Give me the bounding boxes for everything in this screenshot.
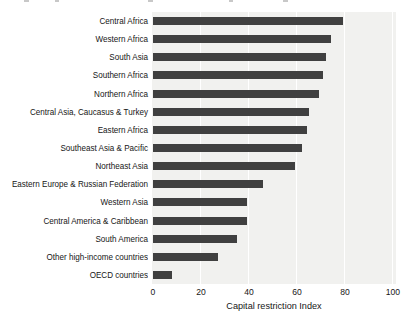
gridline-80 xyxy=(344,12,345,284)
category-label: South Asia xyxy=(9,52,148,62)
bar xyxy=(153,17,343,25)
bar xyxy=(153,162,295,170)
x-tick-label: 100 xyxy=(379,287,408,297)
bar xyxy=(153,180,263,188)
bar xyxy=(153,53,326,61)
category-label: OECD countries xyxy=(9,270,148,280)
category-label: Southeast Asia & Pacific xyxy=(9,143,148,153)
gridline-100 xyxy=(392,12,393,284)
bar xyxy=(153,217,247,225)
bar xyxy=(153,90,319,98)
x-tick-label: 40 xyxy=(235,287,264,297)
category-label: Southern Africa xyxy=(9,70,148,80)
category-label: Western Asia xyxy=(9,197,148,207)
category-label: Eastern Europe & Russian Federation xyxy=(9,179,148,189)
category-label: Western Africa xyxy=(9,34,148,44)
bar xyxy=(153,253,218,261)
cropped-title-fragments xyxy=(0,0,411,3)
category-label: Central America & Caribbean xyxy=(9,216,148,226)
bar-chart-figure: Central AfricaWestern AfricaSouth AsiaSo… xyxy=(0,0,411,325)
category-label: Northern Africa xyxy=(9,89,148,99)
x-tick-label: 20 xyxy=(187,287,216,297)
bar xyxy=(153,235,237,243)
bar xyxy=(153,71,323,79)
x-axis-title: Capital restriction Index xyxy=(157,300,391,311)
category-label: South America xyxy=(9,234,148,244)
x-tick-label: 0 xyxy=(139,287,168,297)
category-label: Eastern Africa xyxy=(9,125,148,135)
bar xyxy=(153,126,307,134)
category-label: Other high-income countries xyxy=(9,252,148,262)
category-label: Central Asia, Caucasus & Turkey xyxy=(9,107,148,117)
bar xyxy=(153,35,331,43)
bar xyxy=(153,144,302,152)
x-tick-label: 80 xyxy=(331,287,360,297)
category-label: Northeast Asia xyxy=(9,161,148,171)
category-label: Central Africa xyxy=(9,16,148,26)
bar xyxy=(153,108,309,116)
bar xyxy=(153,271,172,279)
x-tick-label: 60 xyxy=(283,287,312,297)
bar xyxy=(153,198,247,206)
